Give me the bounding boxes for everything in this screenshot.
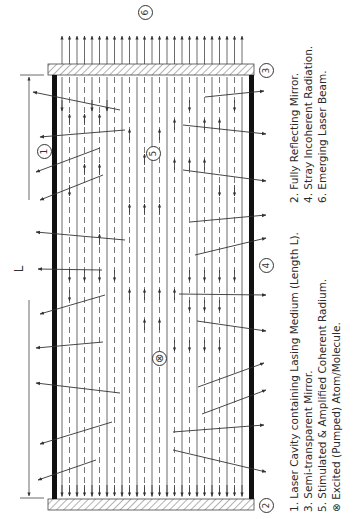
legend-item-6: 6. Emerging Laser Beam. — [315, 46, 329, 203]
legend-item-1: 1. Laser Cavity containing Lasing Medium… — [287, 232, 301, 512]
coherent-radiation — [62, 77, 242, 497]
excited-atom-marker: ⊗ — [152, 351, 167, 366]
emerging-laser-beam — [62, 36, 242, 64]
length-label: L — [12, 266, 26, 273]
legend-item-2: 2. Fully Reflecting Mirror. — [287, 46, 301, 203]
legend-item-4: 4. Stray Incoherent Radiation. — [301, 46, 315, 203]
cavity-wall-left — [52, 75, 57, 499]
semi-transparent-mirror — [48, 64, 254, 75]
callout-4-stray-radiation: 4 — [259, 258, 274, 273]
callout-6-emerging-beam: 6 — [138, 5, 153, 20]
excited-symbol-icon: ⊗ — [330, 500, 342, 512]
cavity-wall-right — [249, 75, 254, 499]
legend-right-column: 2. Fully Reflecting Mirror. 4. Stray Inc… — [287, 46, 329, 203]
callout-1-laser-cavity: 1 — [37, 144, 52, 159]
fully-reflecting-mirror — [48, 499, 254, 510]
legend-left-column: 1. Laser Cavity containing Lasing Medium… — [287, 232, 343, 512]
legend-item-3: 3. Semi-transparent Mirror. — [301, 232, 315, 512]
length-dimension — [20, 75, 44, 498]
legend-item-excited: ⊗ Excited (Pumped) Atom/Molecule. — [329, 232, 343, 512]
callout-2-fully-reflecting-mirror: 2 — [259, 498, 274, 513]
callout-3-semi-transparent-mirror: 3 — [259, 63, 274, 78]
legend-item-5: 5. Stimulated & Amplified Coherent Radiu… — [315, 232, 329, 512]
callout-5-coherent-radiation: 5 — [146, 146, 161, 161]
